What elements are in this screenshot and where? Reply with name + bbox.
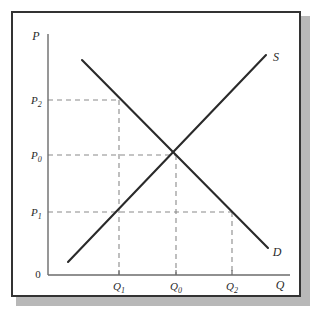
quantity-tick-q0: Q0 bbox=[170, 280, 182, 295]
demand-curve bbox=[82, 60, 268, 248]
quantity-tick-labels: Q1 Q0 Q2 bbox=[113, 280, 238, 295]
price-tick-p1: P1 bbox=[30, 206, 42, 221]
curves-group bbox=[68, 55, 268, 262]
supply-curve-label: S bbox=[273, 50, 279, 64]
price-tick-p2: P2 bbox=[30, 94, 42, 109]
x-axis-label: Q bbox=[276, 278, 285, 292]
supply-demand-chart: P Q 0 S D P2 P0 P1 Q1 Q0 Q2 bbox=[0, 0, 317, 318]
price-tick-labels: P2 P0 P1 bbox=[30, 94, 42, 221]
quantity-tick-q1: Q1 bbox=[113, 280, 125, 295]
origin-label: 0 bbox=[35, 268, 41, 280]
demand-curve-label: D bbox=[272, 245, 282, 259]
figure-root: P Q 0 S D P2 P0 P1 Q1 Q0 Q2 bbox=[0, 0, 317, 318]
price-tick-p0: P0 bbox=[30, 149, 42, 164]
supply-curve bbox=[68, 55, 266, 262]
y-axis-label: P bbox=[31, 29, 40, 43]
quantity-tick-q2: Q2 bbox=[226, 280, 238, 295]
